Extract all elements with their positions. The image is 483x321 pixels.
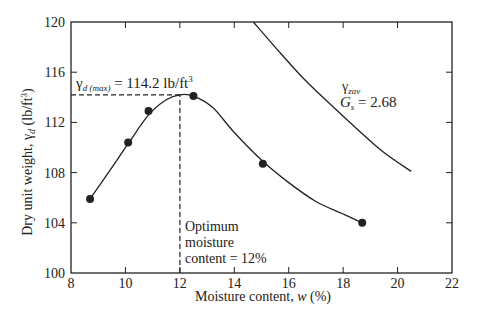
- y-tick-label: 104: [44, 216, 65, 231]
- optimum-annotation-line1: Optimum: [185, 219, 239, 234]
- y-tick-label: 100: [44, 266, 65, 281]
- optimum-annotation-line3: content = 12%: [185, 251, 267, 266]
- x-tick-label: 20: [391, 276, 405, 291]
- axes: 810121416182022100104108112116120: [44, 15, 459, 291]
- gamma-dmax-annotation: γd (max) = 114.2 lb/ft3: [75, 74, 193, 93]
- gs-annotation: Gs = 2.68: [340, 94, 397, 112]
- plot-frame: [71, 22, 452, 273]
- data-point: [259, 160, 267, 168]
- x-tick-label: 12: [173, 276, 187, 291]
- optimum-annotation-line2: moisture: [185, 235, 234, 250]
- x-tick-label: 18: [336, 276, 350, 291]
- y-tick-label: 120: [44, 15, 65, 30]
- data-point: [145, 107, 153, 115]
- y-tick-label: 108: [44, 166, 65, 181]
- compaction-curve: [90, 94, 362, 222]
- data-point: [124, 138, 132, 146]
- data-point: [189, 92, 197, 100]
- y-axis-label: Dry unit weight, γd (lb/ft3): [19, 88, 37, 236]
- compaction-chart: 810121416182022100104108112116120 Dry un…: [0, 0, 483, 321]
- x-axis-label: Moisture content, w (%): [195, 289, 331, 305]
- y-tick-label: 116: [45, 65, 65, 80]
- plot-area: [71, 22, 411, 273]
- x-tick-label: 10: [118, 276, 132, 291]
- data-point: [358, 219, 366, 227]
- x-tick-label: 22: [445, 276, 459, 291]
- data-point: [86, 195, 94, 203]
- y-tick-label: 112: [45, 115, 65, 130]
- x-tick-label: 8: [68, 276, 75, 291]
